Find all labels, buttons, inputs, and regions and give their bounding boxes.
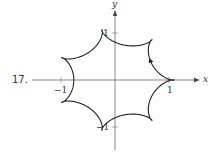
x-axis-label: x bbox=[203, 75, 208, 84]
x-tick-label-neg1: −1 bbox=[54, 86, 67, 95]
x-axis-arrow-icon bbox=[194, 78, 200, 82]
y-tick-label-1: 1 bbox=[103, 29, 109, 38]
x-tick-label-1: 1 bbox=[167, 86, 173, 95]
problem-number: 17. bbox=[12, 74, 28, 85]
y-tick-label-neg1: −1 bbox=[96, 123, 109, 132]
y-axis-label: y bbox=[112, 0, 117, 9]
parametric-plot bbox=[0, 0, 221, 157]
y-axis-arrow-icon bbox=[113, 10, 117, 16]
direction-arrow-icon bbox=[149, 58, 154, 64]
